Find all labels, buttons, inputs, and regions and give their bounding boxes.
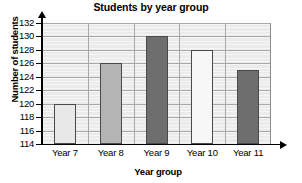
bar-chart-figure: Students by year group Number of student… [0, 0, 302, 183]
category-separator [88, 23, 89, 144]
x-tick-label-year-10: Year 10 [179, 147, 225, 158]
y-tick-label: 120 [0, 98, 34, 109]
y-tick-mark [36, 90, 41, 91]
y-tick-label: 118 [0, 111, 34, 122]
category-separator [134, 23, 135, 144]
bar-year-8 [100, 63, 122, 144]
y-tick-label: 116 [0, 125, 34, 136]
y-axis-arrow-icon [38, 11, 46, 18]
gridline-132 [42, 23, 271, 24]
x-axis-arrow-icon [280, 141, 287, 149]
y-tick-mark [36, 36, 41, 37]
y-tick-label: 130 [0, 30, 34, 41]
y-axis-line [41, 17, 43, 144]
x-axis-line [41, 144, 281, 146]
x-tick-label-year-11: Year 11 [225, 147, 271, 158]
y-tick-label: 114 [0, 138, 34, 149]
plot-area [42, 23, 271, 144]
y-tick-mark [36, 144, 41, 145]
bar-year-9 [146, 36, 168, 144]
x-tick-label-year-7: Year 7 [42, 147, 88, 158]
x-tick-label-year-8: Year 8 [88, 147, 134, 158]
plot-right-border [270, 23, 271, 144]
y-tick-mark [36, 117, 41, 118]
category-separator [179, 23, 180, 144]
bar-year-10 [191, 50, 213, 144]
y-tick-label: 128 [0, 44, 34, 55]
y-tick-mark [36, 50, 41, 51]
y-tick-label: 126 [0, 57, 34, 68]
y-tick-mark [36, 131, 41, 132]
bar-year-11 [237, 70, 259, 144]
y-tick-mark [36, 23, 41, 24]
x-axis-label: Year group [38, 166, 278, 177]
y-tick-label: 124 [0, 71, 34, 82]
y-tick-label: 122 [0, 84, 34, 95]
bar-year-7 [54, 104, 76, 144]
y-tick-label: 132 [0, 17, 34, 28]
y-tick-mark [36, 77, 41, 78]
category-separator [225, 23, 226, 144]
x-tick-label-year-9: Year 9 [134, 147, 180, 158]
y-tick-mark [36, 63, 41, 64]
y-tick-mark [36, 104, 41, 105]
